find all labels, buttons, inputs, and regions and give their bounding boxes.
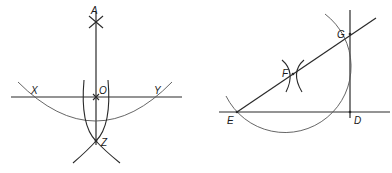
point-e <box>236 111 239 114</box>
label-g: G <box>337 29 345 40</box>
point-f <box>292 73 295 76</box>
label-x: X <box>30 85 38 96</box>
label-a: A <box>90 5 98 16</box>
label-o: O <box>99 85 107 96</box>
point-g <box>349 33 352 36</box>
point-d <box>349 111 352 114</box>
line-eg <box>237 18 376 112</box>
right-construction: E F G D <box>219 10 390 133</box>
point-z <box>95 140 98 143</box>
left-construction: A X O Y Z <box>11 5 182 163</box>
diagram-canvas: A X O Y Z E F G D <box>0 0 392 173</box>
label-z: Z <box>100 137 108 148</box>
label-d: D <box>354 115 361 126</box>
arc-xy <box>18 82 172 121</box>
arc-f-2 <box>296 60 304 92</box>
circle-arc-f <box>226 14 351 133</box>
label-e: E <box>227 115 234 126</box>
label-y: Y <box>154 85 162 96</box>
label-f: F <box>282 68 289 79</box>
